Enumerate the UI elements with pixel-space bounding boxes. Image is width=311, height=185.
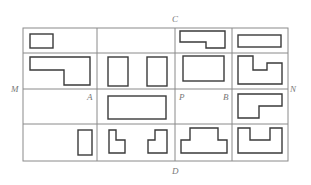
label-b: B — [223, 92, 229, 102]
shape-r1c1-tall-rect-right — [147, 57, 167, 86]
orthographic-grid-diagram: C D M N A P B — [0, 0, 311, 185]
shape-r3c0-narrow-rect — [78, 130, 92, 155]
shape-r1c1-tall-rect-left — [108, 57, 128, 86]
shape-r3c2-stepped-base — [181, 128, 227, 153]
shape-r1c3-notched-rect — [238, 56, 282, 84]
label-n: N — [289, 84, 297, 94]
label-p: P — [178, 92, 185, 102]
shape-r2c1-wide-rect — [108, 96, 166, 119]
shape-r2c3-l-shape — [238, 94, 282, 118]
shape-r0c2-stepped-bar — [180, 31, 225, 48]
label-c: C — [172, 14, 179, 24]
shape-r1c0-stepped-l — [30, 57, 90, 85]
shape-r0c0-small-rect — [30, 34, 53, 48]
shape-r3c1-l-shape — [109, 130, 125, 153]
shape-r1c2-rect — [183, 56, 224, 81]
shape-r0c3-thin-rect — [238, 35, 281, 47]
shape-r3c3-u-shape — [238, 128, 282, 153]
label-d: D — [171, 166, 179, 176]
label-m: M — [10, 84, 19, 94]
shape-r3c1-mirrored-l-shape — [148, 130, 167, 153]
label-a: A — [86, 92, 93, 102]
